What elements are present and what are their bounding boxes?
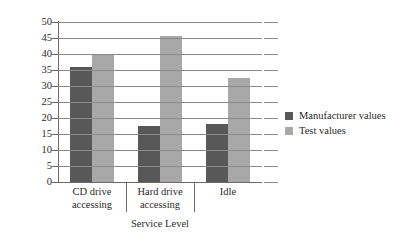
y-tick-stub [264, 182, 278, 183]
y-axis-tick-label: 50 [8, 17, 52, 28]
y-tick-stub [264, 166, 278, 167]
legend-item-test: Test values [285, 126, 386, 137]
plot-area [58, 22, 262, 182]
gridline [58, 102, 262, 103]
x-axis-category-label: Hard driveaccessing [126, 186, 194, 211]
y-tick-stub [264, 150, 278, 151]
y-tick-stub [264, 102, 278, 103]
legend-item-manufacturer: Manufacturer values [285, 111, 386, 122]
y-axis-tick [52, 150, 58, 151]
gridline [58, 54, 262, 55]
y-axis-tick [52, 22, 58, 23]
x-axis-category-label-line: CD drive [58, 186, 126, 199]
x-axis-category-label: CD driveaccessing [58, 186, 126, 211]
legend-swatch-manufacturer-icon [285, 112, 293, 120]
bar-chart: 05101520253035404550 Service Level Manuf… [0, 0, 401, 242]
y-tick-stub [264, 22, 278, 23]
gridline [58, 86, 262, 87]
x-axis-title: Service Level [58, 218, 262, 229]
y-tick-stub [264, 54, 278, 55]
gridline [58, 150, 262, 151]
y-axis-labels: 05101520253035404550 [0, 0, 52, 242]
y-axis-tick [52, 118, 58, 119]
x-axis-line [58, 182, 262, 183]
gridline [58, 38, 262, 39]
y-axis-tick-label: 35 [8, 65, 52, 76]
x-axis-category-label-line: accessing [58, 199, 126, 212]
y-tick-stub [264, 86, 278, 87]
bar [160, 36, 182, 182]
y-axis-tick [52, 182, 58, 183]
y-axis-tick [52, 54, 58, 55]
y-tick-stub [264, 118, 278, 119]
y-axis-tick-label: 40 [8, 49, 52, 60]
x-axis-category-label-line: accessing [126, 199, 194, 212]
y-axis-tick-label: 25 [8, 97, 52, 108]
y-axis-tick-label: 15 [8, 129, 52, 140]
y-tick-stub [264, 38, 278, 39]
y-axis-tick-label: 20 [8, 113, 52, 124]
legend-swatch-test-icon [285, 127, 293, 135]
y-axis-tick [52, 86, 58, 87]
gridline [58, 70, 262, 71]
x-axis-category-label: Idle [194, 186, 262, 199]
bar [70, 67, 92, 182]
y-tick-stub [264, 134, 278, 135]
y-axis-tick [52, 38, 58, 39]
legend-label-test: Test values [299, 126, 346, 137]
y-axis-tick-label: 5 [8, 161, 52, 172]
y-axis-tick [52, 166, 58, 167]
x-axis-category-label-line: Idle [194, 186, 262, 199]
y-axis-tick-label: 0 [8, 177, 52, 188]
y-tick-stub [264, 70, 278, 71]
gridline [58, 118, 262, 119]
y-axis-tick [52, 102, 58, 103]
x-axis-category-label-line: Hard drive [126, 186, 194, 199]
chart-legend: Manufacturer values Test values [285, 111, 386, 140]
gridline [58, 22, 262, 23]
y-axis-tick-label: 10 [8, 145, 52, 156]
gridline [58, 134, 262, 135]
y-axis-tick-label: 30 [8, 81, 52, 92]
gridline [58, 166, 262, 167]
y-axis-tick-label: 45 [8, 33, 52, 44]
y-axis-tick [52, 70, 58, 71]
y-axis-tick [52, 134, 58, 135]
legend-label-manufacturer: Manufacturer values [299, 111, 386, 122]
